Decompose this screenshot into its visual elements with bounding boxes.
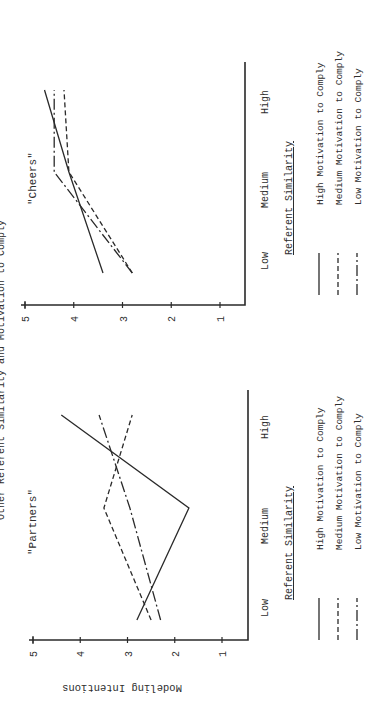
rotated-figure-page: Other Referent Similarity and Motivation… (0, 0, 377, 701)
y-tick-label: 5 (21, 316, 32, 322)
x-category-label: High (260, 415, 271, 439)
axes (29, 390, 248, 640)
chart-panel-cheers: 12345"Cheers"LowMediumHighReferent Simil… (21, 51, 364, 322)
x-category-label: Medium (260, 172, 271, 208)
series-solid (45, 90, 104, 273)
legend-label: High Motivation to Comply (315, 407, 326, 550)
y-axis-label: Modeling Intentions (62, 682, 182, 694)
legend-heading: Referent Similarity (284, 141, 295, 255)
y-tick-label: 1 (218, 651, 229, 657)
series-dashed (104, 415, 151, 620)
x-category-label: Low (260, 599, 271, 617)
y-tick-label: 5 (29, 651, 40, 657)
chart-title: "Partners" (27, 489, 39, 555)
y-tick-label: 4 (76, 651, 87, 657)
legend-label: Medium Motivation to Comply (334, 51, 345, 205)
legend-label: Medium Motivation to Comply (334, 396, 345, 550)
figure-title-cropped: Other Referent Similarity and Motivation… (0, 220, 7, 520)
y-tick-label: 4 (70, 316, 81, 322)
x-category-label: Low (260, 252, 271, 270)
legend-heading: Referent Similarity (284, 486, 295, 600)
legend-label: Low Motivation to Comply (353, 413, 364, 550)
chart-title: "Cheers" (27, 152, 39, 205)
y-tick-label: 3 (119, 316, 130, 322)
axes (21, 62, 245, 305)
legend-label: Low Motivation to Comply (353, 68, 364, 205)
figure-canvas: Other Referent Similarity and Motivation… (0, 0, 377, 701)
y-tick-label: 2 (167, 316, 178, 322)
x-category-label: High (260, 90, 271, 114)
chart-panel-partners: 12345"Partners"LowMediumHighReferent Sim… (27, 390, 364, 657)
y-tick-label: 3 (124, 651, 135, 657)
y-tick-label: 1 (216, 316, 227, 322)
x-category-label: Medium (260, 508, 271, 544)
series-dashed (64, 90, 132, 273)
series-solid (61, 415, 189, 620)
y-tick-label: 2 (171, 651, 182, 657)
legend-label: High Motivation to Comply (315, 62, 326, 205)
